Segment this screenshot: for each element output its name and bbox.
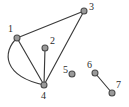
graph-node-label-3: 3 [89, 2, 94, 12]
graph-node-5 [69, 71, 75, 77]
graph-edge-2-4 [44, 48, 45, 85]
graph-node-label-4: 4 [41, 91, 46, 101]
graph-edge-1-3 [17, 11, 84, 38]
graph-node-1 [14, 35, 20, 41]
edge-layer [8, 11, 112, 93]
graph-node-3 [81, 8, 87, 14]
graph-canvas [0, 0, 129, 107]
graph-node-4 [41, 82, 47, 88]
graph-node-label-2: 2 [50, 36, 55, 46]
graph-node-label-1: 1 [8, 24, 13, 34]
node-layer [14, 8, 115, 96]
graph-figure: 1234567 [0, 0, 129, 107]
graph-node-label-5: 5 [63, 65, 68, 75]
graph-node-label-7: 7 [116, 80, 121, 90]
graph-node-label-6: 6 [87, 60, 92, 70]
graph-node-6 [92, 70, 98, 76]
graph-edge-1-4 [17, 38, 44, 85]
graph-edge-1-4 [8, 38, 44, 85]
graph-node-2 [42, 45, 48, 51]
graph-node-7 [109, 90, 115, 96]
graph-edge-6-7 [95, 73, 112, 93]
